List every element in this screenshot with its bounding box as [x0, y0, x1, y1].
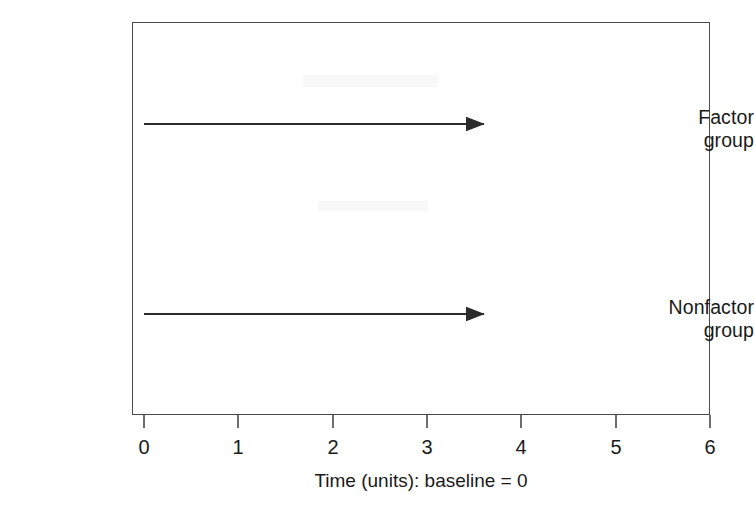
xtick-label-2: 2 — [313, 436, 353, 458]
plot-area-frame — [132, 22, 710, 415]
xtick-label-0: 0 — [124, 436, 164, 458]
xtick-label-3: 3 — [407, 436, 447, 458]
category-label-factor-group: Factor group — [628, 106, 754, 152]
axis-tick-marks — [144, 415, 710, 428]
xtick-label-6: 6 — [690, 436, 730, 458]
chart-figure: Factor group Nonfactor group 0 1 2 3 4 5… — [0, 0, 754, 511]
category-label-nonfactor-group: Nonfactor group — [628, 296, 754, 342]
xtick-label-4: 4 — [501, 436, 541, 458]
x-axis-title: Time (units): baseline = 0 — [132, 470, 710, 492]
xtick-label-5: 5 — [596, 436, 636, 458]
scan-artifact — [303, 75, 438, 87]
scan-artifact — [318, 201, 428, 211]
xtick-label-1: 1 — [218, 436, 258, 458]
